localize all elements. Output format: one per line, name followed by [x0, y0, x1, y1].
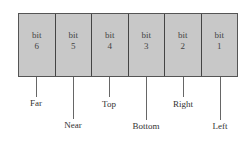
leader-line-right	[183, 77, 184, 97]
bit-number: 2	[165, 41, 201, 52]
bit-word: bit	[129, 30, 165, 41]
bit-number: 1	[202, 41, 238, 52]
bit-number: 4	[92, 41, 128, 52]
bit-cell-4: bit4	[92, 14, 129, 76]
bit-word: bit	[19, 30, 55, 41]
bit-number: 3	[129, 41, 165, 52]
bit-number: 5	[56, 41, 92, 52]
bit-word: bit	[165, 30, 201, 41]
bit-cell-1: bit1	[202, 14, 238, 76]
bit-cell-3: bit3	[129, 14, 166, 76]
label-top: Top	[102, 99, 116, 109]
label-right: Right	[173, 99, 193, 109]
bit-cell-6: bit6	[19, 14, 56, 76]
leader-line-bottom	[146, 77, 147, 120]
bit-cell-5: bit5	[56, 14, 93, 76]
bit-cell-2: bit2	[165, 14, 202, 76]
leader-line-top	[109, 77, 110, 97]
bit-word: bit	[56, 30, 92, 41]
label-left: Left	[213, 121, 228, 131]
leader-line-left	[220, 77, 221, 120]
bit-word: bit	[202, 30, 238, 41]
label-far: Far	[30, 98, 42, 108]
leader-line-far	[36, 77, 37, 97]
bit-register: bit6 bit5 bit4 bit3 bit2 bit1	[18, 13, 238, 77]
label-bottom: Bottom	[132, 121, 159, 131]
bit-word: bit	[92, 30, 128, 41]
label-near: Near	[64, 120, 82, 130]
leader-line-near	[73, 77, 74, 119]
bit-number: 6	[19, 41, 55, 52]
